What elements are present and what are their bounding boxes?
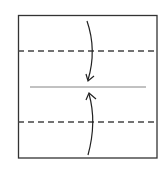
diagram-canvas <box>0 0 164 169</box>
origami-diagram <box>0 0 164 169</box>
fold-up-arrow-icon <box>86 93 96 155</box>
